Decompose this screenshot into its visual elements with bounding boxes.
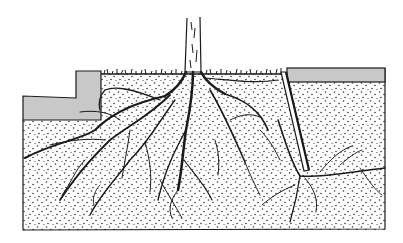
left-pavement-curb <box>23 71 101 120</box>
tree-trunk <box>185 17 201 72</box>
right-pavement-slab <box>287 68 385 82</box>
illustration-root-system: Cross-section illustration of a tree's r… <box>0 0 403 243</box>
